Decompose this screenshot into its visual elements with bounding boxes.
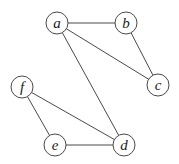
node-c: c bbox=[147, 74, 169, 96]
node-b: b bbox=[115, 12, 137, 34]
node-label: a bbox=[53, 15, 61, 31]
node-label: b bbox=[122, 15, 130, 31]
node-f: f bbox=[11, 76, 33, 98]
node-label: c bbox=[155, 77, 162, 93]
edge-a-c bbox=[57, 23, 158, 85]
graph-diagram: abcfed bbox=[0, 0, 179, 164]
edge-f-d bbox=[22, 87, 124, 145]
node-a: a bbox=[46, 12, 68, 34]
node-d: d bbox=[113, 134, 135, 156]
node-label: d bbox=[120, 137, 128, 153]
edges-group bbox=[22, 23, 158, 145]
node-label: e bbox=[52, 137, 59, 153]
node-e: e bbox=[44, 134, 66, 156]
edge-a-d bbox=[57, 23, 124, 145]
